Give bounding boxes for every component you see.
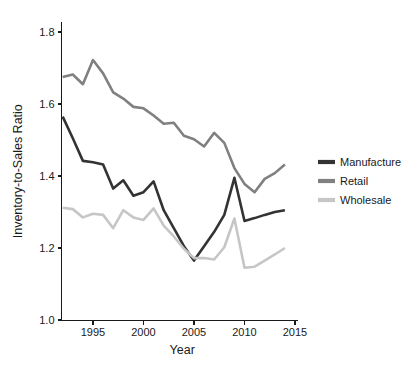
x-tick-label: 2015 [283, 326, 307, 338]
line-chart: 1.01.21.41.61.8 19952000200520102015 Yea… [0, 0, 402, 380]
data-series-group [63, 60, 285, 268]
series-line-retail [63, 60, 285, 192]
legend-label-retail: Retail [340, 175, 368, 187]
y-axis-ticks: 1.01.21.41.61.8 [39, 26, 61, 326]
x-axis-title: Year [170, 343, 195, 357]
x-tick-label: 2000 [131, 326, 155, 338]
y-tick-label: 1.8 [39, 26, 54, 38]
legend-label-manufacture: Manufacture [340, 156, 401, 168]
y-axis-title: Inventory-to-Sales Ratio [11, 104, 25, 238]
chart-figure: 1.01.21.41.61.8 19952000200520102015 Yea… [0, 0, 402, 380]
y-tick-label: 1.6 [39, 98, 54, 110]
x-axis-ticks: 19952000200520102015 [81, 321, 307, 338]
x-tick-label: 2005 [182, 326, 206, 338]
y-tick-label: 1.4 [39, 170, 54, 182]
y-tick-label: 1.0 [39, 314, 54, 326]
legend-label-wholesale: Wholesale [340, 194, 391, 206]
x-tick-label: 2010 [232, 326, 256, 338]
chart-legend: ManufactureRetailWholesale [318, 156, 401, 206]
x-tick-label: 1995 [81, 326, 105, 338]
series-line-wholesale [63, 208, 285, 268]
y-tick-label: 1.2 [39, 242, 54, 254]
